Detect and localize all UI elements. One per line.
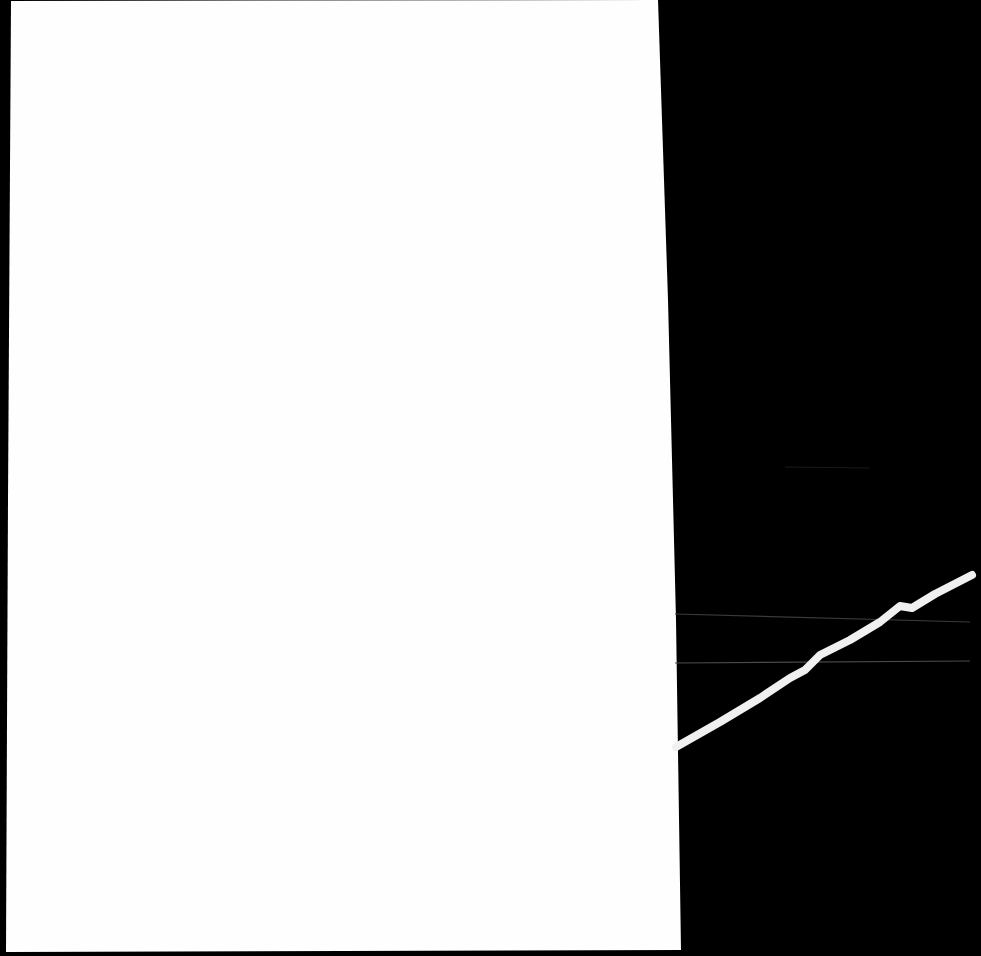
photo-scene	[0, 0, 981, 956]
paper-sheet	[6, 0, 681, 952]
